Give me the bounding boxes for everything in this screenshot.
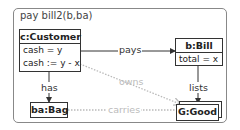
bill-name: b:Bill xyxy=(176,39,222,53)
good-name: G:Good xyxy=(177,105,218,119)
owns-label: owns xyxy=(119,76,144,87)
bag-object[interactable]: ba:Bag xyxy=(30,102,68,118)
pays-label: pays xyxy=(118,44,142,55)
bill-object[interactable]: b:Bill total = x xyxy=(175,38,223,66)
bill-attr-total: total = x xyxy=(176,53,222,66)
good-object[interactable]: G:Good xyxy=(176,104,219,121)
customer-attr-cash-condition: cash = y xyxy=(20,44,80,57)
lists-label: lists xyxy=(189,82,208,93)
customer-attr-cash-assignment: cash := y - x xyxy=(20,57,80,70)
has-label: has xyxy=(41,82,58,93)
customer-name: c:Customer xyxy=(20,30,80,44)
customer-object[interactable]: c:Customer cash = y cash := y - x xyxy=(19,29,81,72)
carries-label: carries xyxy=(107,104,141,115)
bag-name: ba:Bag xyxy=(31,103,67,117)
